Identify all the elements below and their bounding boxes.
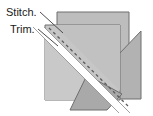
sewing-diagram: Stitch. Trim. xyxy=(0,0,153,116)
trim-label: Trim. xyxy=(10,23,35,35)
diagram-canvas: Stitch. Trim. xyxy=(0,0,153,116)
stitch-label: Stitch. xyxy=(6,6,37,18)
